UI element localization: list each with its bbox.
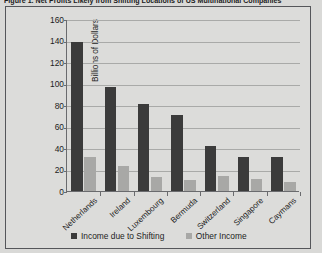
legend-item-secondary: Other Income — [186, 231, 246, 241]
plot-area: Billions of Dollars 02040608010012014016… — [66, 20, 299, 192]
bar-ireland-primary — [105, 87, 117, 191]
y-tick-label: 140 — [24, 36, 64, 46]
y-tick-label: 160 — [24, 15, 64, 25]
y-tick-label: 60 — [24, 122, 64, 132]
chart-frame: Billions of Dollars 02040608010012014016… — [5, 6, 311, 249]
y-tick-label: 80 — [24, 101, 64, 111]
gridline — [67, 42, 300, 43]
bar-caymans-primary — [271, 157, 283, 191]
gridline — [67, 63, 300, 64]
y-tick-mark — [64, 171, 68, 172]
gridline — [67, 149, 300, 150]
legend-label: Other Income — [196, 231, 247, 241]
y-tick-label: 0 — [24, 187, 64, 197]
bar-singapore-secondary — [251, 179, 263, 191]
bar-switzerland-secondary — [218, 176, 230, 191]
bar-caymans-secondary — [284, 182, 296, 191]
x-tick-mark — [134, 192, 135, 196]
bar-bermuda-primary — [171, 115, 183, 191]
x-tick-mark — [200, 192, 201, 196]
figure-root: Figure 1. Net Profits Likely from Shifti… — [0, 0, 322, 253]
gridline — [67, 171, 300, 172]
x-tick-mark — [233, 192, 234, 196]
y-tick-mark — [64, 20, 68, 21]
x-tick-mark — [100, 192, 101, 196]
x-tick-mark — [300, 192, 301, 196]
x-tick-mark — [167, 192, 168, 196]
y-tick-mark — [64, 106, 68, 107]
legend-item-primary: Income due to Shifting — [71, 231, 164, 241]
chart-legend: Income due to Shifting Other Income — [6, 231, 312, 241]
y-tick-label: 100 — [24, 79, 64, 89]
bar-ireland-secondary — [118, 166, 130, 191]
bar-singapore-primary — [238, 157, 250, 191]
y-tick-label: 40 — [24, 144, 64, 154]
y-tick-label: 20 — [24, 165, 64, 175]
gridline — [67, 20, 300, 21]
y-tick-mark — [64, 192, 68, 193]
y-tick-mark — [64, 42, 68, 43]
y-axis-title: Billions of Dollars — [91, 0, 100, 111]
legend-swatch-icon — [186, 233, 192, 239]
legend-swatch-icon — [71, 233, 77, 239]
bar-bermuda-secondary — [184, 180, 196, 191]
bar-switzerland-primary — [205, 146, 217, 191]
bar-netherlands-primary — [71, 42, 83, 191]
bar-luxembourg-primary — [138, 104, 150, 191]
gridline — [67, 85, 300, 86]
gridline — [67, 106, 300, 107]
gridline — [67, 128, 300, 129]
x-tick-mark — [267, 192, 268, 196]
y-tick-mark — [64, 128, 68, 129]
y-tick-mark — [64, 63, 68, 64]
y-tick-label: 120 — [24, 58, 64, 68]
y-tick-mark — [64, 149, 68, 150]
bar-luxembourg-secondary — [151, 177, 163, 191]
bar-netherlands-secondary — [84, 157, 96, 191]
y-tick-mark — [64, 85, 68, 86]
legend-label: Income due to Shifting — [81, 231, 164, 241]
